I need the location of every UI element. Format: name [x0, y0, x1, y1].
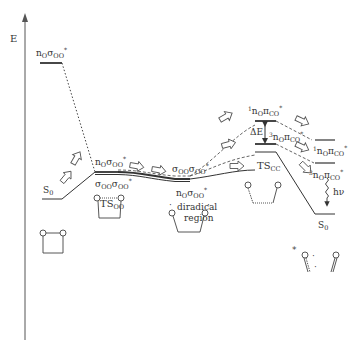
label-ts-oo-upper: nOσOO* [95, 155, 126, 169]
label-diradical-lower: nOσOO* [176, 186, 207, 200]
arrow-icon [294, 113, 311, 128]
energy-axis: E [10, 13, 28, 340]
label-ts-cc: TSCC [257, 160, 281, 173]
diagram-svg: E nOσOO* S0 nOσOO* σOOσOO* TSOO σOOσOO* … [0, 0, 360, 360]
axis-label: E [10, 33, 17, 44]
label-diradical-upper: σOOσOO* [172, 162, 209, 176]
arrow-icon [230, 161, 244, 171]
energy-diagram: E nOσOO* S0 nOσOO* σOOσOO* TSOO σOOσOO* … [0, 0, 360, 360]
axis-arrow-icon [22, 13, 28, 22]
molecule-ts-cc [245, 182, 281, 203]
label-singlet-right: 1nOπCO* [313, 144, 347, 158]
arrow-icon [129, 160, 145, 172]
label-s0-right: S0 [318, 220, 328, 232]
label-region-text: region [184, 213, 214, 223]
label-s0-left: S0 [43, 185, 53, 197]
arrow-icon [69, 149, 85, 166]
molecule-products: * · · [292, 245, 339, 272]
excited-star: * [292, 245, 297, 255]
emission-wavy-arrow [326, 178, 329, 204]
label-singlet-top: 1nOπCO* [248, 104, 282, 118]
radical-dot: · [314, 262, 317, 272]
label-diradical-text: diradical [177, 202, 217, 212]
label-triplet-right: 3nOπCO* [309, 168, 343, 182]
radical-dot: · [207, 200, 210, 210]
dashed-to-triplet [190, 155, 255, 176]
radical-dot: · [169, 200, 172, 210]
arrow-icon [58, 168, 75, 185]
radical-dot: · [312, 251, 315, 261]
label-hv: hν [333, 187, 344, 197]
arrow-icon [218, 109, 235, 125]
molecule-dioxetane [40, 230, 66, 253]
label-left-excited: nOσOO* [36, 46, 67, 60]
label-delta-e: ΔE [250, 127, 263, 137]
label-ts-oo-lower: σOOσOO* [95, 177, 132, 191]
